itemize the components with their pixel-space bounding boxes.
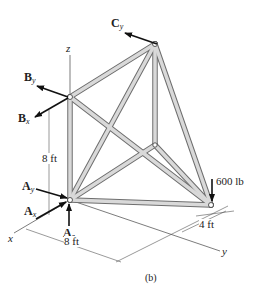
- dimension-height-label: 8 ft: [42, 153, 57, 164]
- y-axis-label: y: [222, 246, 227, 257]
- force-Bx-label: Bx: [18, 112, 30, 124]
- joint-A: [68, 198, 73, 203]
- force-By-label: By: [24, 71, 36, 83]
- force-Ax-label: Ax: [24, 205, 36, 217]
- joint-E: [153, 143, 157, 147]
- load-label: 600 lb: [216, 176, 244, 187]
- force-Ay-arrow: [36, 189, 67, 198]
- dimension-width-label: 4 ft: [199, 219, 214, 230]
- y-axis: [70, 200, 220, 251]
- force-By-arrow: [37, 86, 68, 97]
- x-axis-label: x: [8, 233, 13, 244]
- force-Cy-arrow: [125, 33, 157, 44]
- force-Bx-arrow: [35, 98, 68, 117]
- figure-caption: (b): [145, 273, 157, 283]
- force-Ay-label: Ay: [22, 180, 34, 192]
- z-axis-label: z: [66, 43, 70, 54]
- force-Cy-label: Cy: [111, 17, 123, 29]
- joint-D: [209, 203, 214, 208]
- dimension-length-label: 8 ft: [64, 236, 79, 247]
- force-Ax-arrow: [36, 202, 66, 219]
- truss-members: [70, 44, 211, 205]
